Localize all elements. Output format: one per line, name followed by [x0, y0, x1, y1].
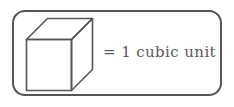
cube-svg [22, 14, 98, 94]
cube-icon [22, 14, 98, 94]
legend-equation-text: = 1 cubic unit [103, 40, 223, 64]
legend-canvas: = 1 cubic unit [0, 0, 234, 107]
cube-right-face [72, 19, 93, 91]
cube-front-face [27, 40, 72, 91]
